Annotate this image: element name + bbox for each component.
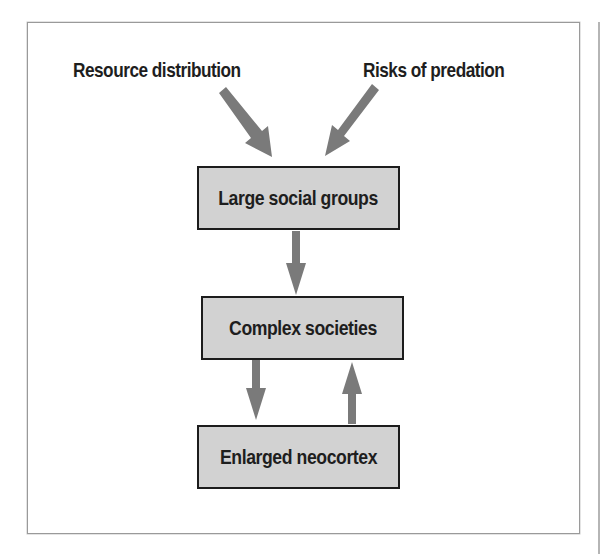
node-complex-societies: Complex societies: [201, 296, 404, 360]
node-large-social-groups: Large social groups: [197, 166, 400, 230]
node-enlarged-neocortex: Enlarged neocortex: [197, 425, 400, 489]
input-label-resource-distribution: Resource distribution: [73, 58, 241, 82]
page-side-rule: [598, 22, 600, 554]
node-label: Complex societies: [229, 316, 377, 340]
input-label-risks-of-predation: Risks of predation: [363, 58, 504, 82]
node-label: Large social groups: [219, 186, 379, 210]
node-label: Enlarged neocortex: [220, 445, 377, 469]
